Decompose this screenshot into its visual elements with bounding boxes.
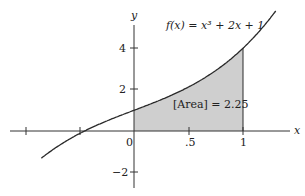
y-tick-label-neg2: −2	[112, 166, 128, 179]
x-tick-label-half: .5	[185, 136, 196, 149]
area-label: [Area] = 2.25	[173, 98, 249, 111]
y-tick-label-4: 4	[119, 42, 126, 55]
x-tick-label-1: 1	[240, 136, 247, 149]
function-label: f(x) = x³ + 2x + 1	[165, 19, 264, 32]
function-plot: x 0 .5 1 y 4 2 −2 f(x) = x³ + 2x + 1 [Ar…	[0, 0, 305, 196]
x-tick-label-0: 0	[126, 136, 133, 149]
shaded-area	[134, 48, 243, 131]
y-axis-label: y	[130, 9, 138, 22]
x-axis-label: x	[294, 124, 301, 137]
y-tick-label-2: 2	[119, 83, 126, 96]
